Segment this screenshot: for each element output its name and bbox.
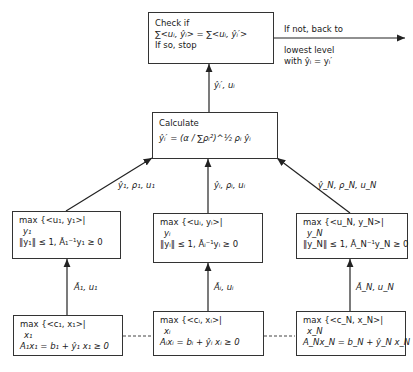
mid-edge-label-right: ŷ_N, ρ_N, u_N xyxy=(318,180,376,190)
mid1-line1: max {<u₁, y₁>| xyxy=(19,215,114,226)
check-line1: Check if xyxy=(155,18,267,29)
low-edge-label-right: Ã_N, u_N xyxy=(356,282,394,292)
mid-edge-label-left: ŷ₁, ρ₁, u₁ xyxy=(118,180,155,190)
midi-line3: ‖yᵢ‖ ≤ 1, Ãᵢ⁻¹yᵢ ≥ 0 xyxy=(160,239,256,250)
subproblem-dual-box-i: max {<uᵢ, yᵢ>| yᵢ ‖yᵢ‖ ≤ 1, Ãᵢ⁻¹yᵢ ≥ 0 xyxy=(153,213,263,263)
exit-label-below-1: lowest level xyxy=(284,45,334,55)
boti-line3: Aᵢxᵢ = bᵢ + ŷᵢ xᵢ ≥ 0 xyxy=(160,337,257,348)
subproblem-dual-box-n: max {<u_N, y_N>| y_N ‖y_N‖ ≤ 1, Ã_N⁻¹y_N… xyxy=(296,213,408,259)
mid-edge-label-center: ŷᵢ, ρᵢ, uᵢ xyxy=(214,180,245,190)
check-convergence-box: Check if ∑<uᵢ, ŷᵢ> = ∑<uᵢ, ŷᵢ′> If so, s… xyxy=(148,12,274,64)
calculate-box: Calculate ŷᵢ′ = (α / ∑ρᵢ²)^½ ρᵢ ŷᵢ xyxy=(152,112,278,159)
exit-label-below-2: with ŷᵢ = yᵢ′ xyxy=(284,56,332,66)
boti-line1: max {<cᵢ, xᵢ>| xyxy=(160,315,257,326)
botn-line1: max {<c_N, x_N>| xyxy=(303,315,399,326)
botn-line2: x_N xyxy=(303,326,399,337)
midn-line3: ‖y_N‖ ≤ 1, Ã_N⁻¹y_N ≥ 0 xyxy=(303,239,401,250)
low-edge-label-center: Ãᵢ, uᵢ xyxy=(214,282,234,292)
midi-line2: yᵢ xyxy=(160,228,256,239)
midn-line2: y_N xyxy=(303,228,401,239)
mid1-line2: y₁ xyxy=(19,226,114,237)
exit-label-above: If not, back to xyxy=(284,24,343,34)
bot1-line1: max {<c₁, x₁>| xyxy=(20,319,116,330)
subproblem-dual-box-1: max {<u₁, y₁>| y₁ ‖y₁‖ ≤ 1, Ã₁⁻¹y₁ ≥ 0 xyxy=(12,211,121,259)
subproblem-primal-box-1: max {<c₁, x₁>| x₁ A₁x₁ = b₁ + ŷ₁ x₁ ≥ 0 xyxy=(13,315,123,356)
check-line2: ∑<uᵢ, ŷᵢ> = ∑<uᵢ, ŷᵢ′> xyxy=(155,29,267,40)
mid1-line3: ‖y₁‖ ≤ 1, Ã₁⁻¹y₁ ≥ 0 xyxy=(19,237,114,248)
botn-line3: A_Nx_N = b_N + ŷ_N x_N ≥ 0 xyxy=(303,337,399,348)
calc-line1: Calculate xyxy=(159,118,271,129)
bot1-line2: x₁ xyxy=(20,330,116,341)
subproblem-primal-box-i: max {<cᵢ, xᵢ>| xᵢ Aᵢxᵢ = bᵢ + ŷᵢ xᵢ ≥ 0 xyxy=(153,311,264,356)
top-edge-label: ŷᵢ′, uᵢ xyxy=(214,80,235,90)
calc-formula: ŷᵢ′ = (α / ∑ρᵢ²)^½ ρᵢ ŷᵢ xyxy=(159,133,271,144)
boti-line2: xᵢ xyxy=(160,326,257,337)
bot1-line3: A₁x₁ = b₁ + ŷ₁ x₁ ≥ 0 xyxy=(20,341,116,352)
midn-line1: max {<u_N, y_N>| xyxy=(303,217,401,228)
low-edge-label-left: Ã₁, u₁ xyxy=(74,282,97,292)
midi-line1: max {<uᵢ, yᵢ>| xyxy=(160,217,256,228)
check-line3: If so, stop xyxy=(155,40,267,51)
subproblem-primal-box-n: max {<c_N, x_N>| x_N A_Nx_N = b_N + ŷ_N … xyxy=(296,311,406,356)
